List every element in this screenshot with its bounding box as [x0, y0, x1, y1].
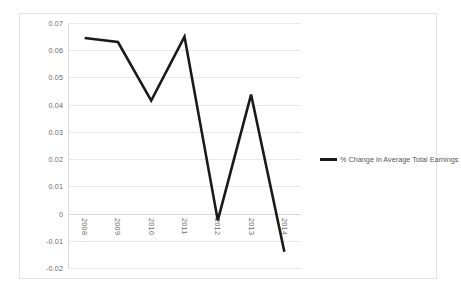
plot-area: 0.070.060.050.040.030.020.010-0.01-0.02 …: [68, 23, 301, 268]
y-axis-tick-label: 0.07: [49, 19, 63, 28]
chart-container: 0.070.060.050.040.030.020.010-0.01-0.02 …: [19, 13, 437, 279]
y-axis-tick-label: 0.05: [49, 73, 63, 82]
plot-inner: 0.070.060.050.040.030.020.010-0.01-0.02 …: [68, 23, 301, 268]
series-line-earnings: [85, 37, 285, 252]
y-axis-tick-label: 0.02: [49, 155, 63, 164]
y-axis-tick-label: 0.06: [49, 46, 63, 55]
legend-swatch-icon: [320, 158, 337, 161]
y-axis-tick-label: 0.04: [49, 100, 63, 109]
y-axis-tick-label: 0: [59, 209, 63, 218]
chart-legend: % Change in Average Total Earnings: [320, 155, 459, 164]
y-axis-tick-label: 0.01: [49, 182, 63, 191]
y-axis-tick-label: 0.03: [49, 127, 63, 136]
y-axis-tick-label: -0.01: [46, 236, 63, 245]
legend-label: % Change in Average Total Earnings: [340, 155, 459, 164]
series-line-chart: [68, 23, 301, 268]
y-axis-tick-label: -0.02: [46, 264, 63, 273]
gridline: [68, 268, 301, 269]
